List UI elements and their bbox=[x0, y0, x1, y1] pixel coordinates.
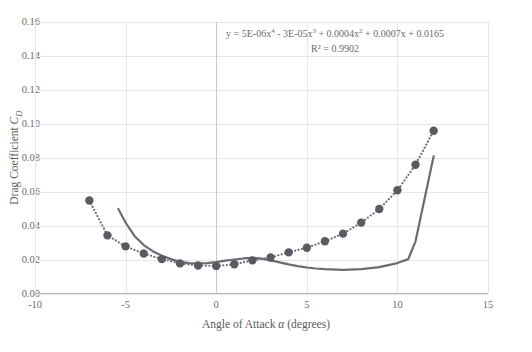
plot-area bbox=[35, 22, 488, 294]
data-point-marker bbox=[375, 205, 383, 213]
x-axis-title: Angle of Attack α (degrees) bbox=[0, 318, 532, 330]
data-point-marker bbox=[411, 161, 419, 169]
y-axis-tick-label: 0.02 bbox=[0, 255, 40, 266]
y-axis-title-prefix: Drag Coefficient bbox=[8, 124, 20, 204]
x-axis-title-suffix: (degrees) bbox=[284, 318, 330, 330]
data-point-marker bbox=[284, 248, 292, 256]
data-point-marker bbox=[357, 218, 365, 226]
x-axis-tick-label: -5 bbox=[106, 300, 146, 311]
y-axis-tick-label: 0.14 bbox=[0, 51, 40, 62]
data-point-marker bbox=[429, 127, 437, 135]
data-point-marker bbox=[140, 249, 148, 257]
y-axis-tick-label: 0.16 bbox=[0, 17, 40, 28]
data-point-marker bbox=[103, 231, 111, 239]
data-point-marker bbox=[85, 196, 93, 204]
y-axis-tick-label: 0.00 bbox=[0, 289, 40, 300]
trendline-equation: y = 5E-06x4 - 3E-05x3 + 0.0004x2 + 0.000… bbox=[205, 26, 465, 42]
cd-subscript: D bbox=[14, 111, 24, 117]
trendline-annotation: y = 5E-06x4 - 3E-05x3 + 0.0004x2 + 0.000… bbox=[205, 26, 465, 56]
data-point-marker bbox=[393, 186, 401, 194]
data-point-marker bbox=[176, 259, 184, 267]
series-layer bbox=[35, 22, 488, 294]
data-point-marker bbox=[248, 256, 256, 264]
x-axis-tick-label: -10 bbox=[15, 300, 55, 311]
series-trendline-dotted bbox=[89, 131, 433, 266]
data-point-marker bbox=[230, 260, 238, 268]
gridline-horizontal bbox=[35, 294, 488, 295]
data-point-marker bbox=[303, 244, 311, 252]
x-axis-tick-label: 10 bbox=[377, 300, 417, 311]
data-point-marker bbox=[212, 262, 220, 270]
data-point-marker bbox=[321, 237, 329, 245]
data-point-marker bbox=[266, 253, 274, 261]
gridline-vertical bbox=[488, 22, 489, 294]
data-point-marker bbox=[121, 242, 129, 250]
drag-coefficient-chart: 0.000.020.040.060.080.100.120.140.16 -10… bbox=[0, 0, 532, 352]
series-line-reference bbox=[118, 156, 433, 270]
data-point-marker bbox=[339, 229, 347, 237]
cd-symbol: C bbox=[8, 117, 20, 125]
data-point-marker bbox=[158, 255, 166, 263]
data-point-marker bbox=[194, 261, 202, 269]
x-axis-tick-label: 5 bbox=[287, 300, 327, 311]
trendline-r2: R² = 0.9902 bbox=[205, 42, 465, 57]
x-axis-tick-label: 15 bbox=[468, 300, 508, 311]
y-axis-title: Drag Coefficient CD bbox=[8, 68, 23, 248]
x-axis-title-prefix: Angle of Attack bbox=[202, 318, 278, 330]
x-axis-tick-label: 0 bbox=[196, 300, 236, 311]
